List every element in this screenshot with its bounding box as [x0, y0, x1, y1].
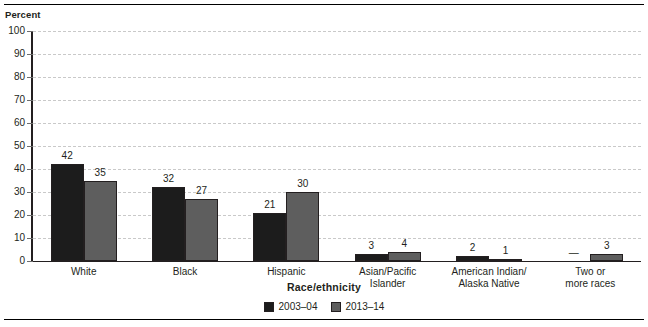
bar-1 [286, 192, 319, 261]
bar-value-label: 35 [76, 168, 125, 178]
bar-value-label: 42 [43, 151, 92, 161]
y-axis-tick [27, 146, 33, 147]
y-axis-tick [27, 31, 33, 32]
legend-item: 2003–04 [264, 301, 318, 312]
gridline [33, 77, 641, 78]
gridline [33, 192, 641, 193]
x-axis-line [33, 261, 641, 262]
legend-item: 2013–14 [331, 301, 385, 312]
bar-1 [388, 252, 421, 261]
bottom-rule [4, 319, 644, 320]
bar-1 [185, 199, 218, 261]
legend-swatch [264, 302, 274, 312]
y-axis-tick [27, 123, 33, 124]
y-axis-tick [27, 261, 33, 262]
chart-figure: Percent 4235322721303421—3 0102030405060… [0, 0, 648, 327]
bar-value-label: 3 [582, 241, 631, 251]
y-axis-tick [27, 100, 33, 101]
gridline [33, 146, 641, 147]
y-axis-caption: Percent [5, 9, 41, 20]
bar-value-label: 27 [177, 186, 226, 196]
y-axis-tick [27, 54, 33, 55]
y-axis-tick-label: 20 [0, 210, 25, 220]
y-axis-tick-label: 70 [0, 95, 25, 105]
bar-0 [51, 164, 84, 261]
bar-value-label: 4 [380, 239, 429, 249]
bar-1 [590, 254, 623, 261]
gridline [33, 238, 641, 239]
y-axis-tick-label: 80 [0, 72, 25, 82]
x-axis-title: Race/ethnicity [0, 281, 648, 293]
y-axis-tick [27, 192, 33, 193]
y-axis-tick-label: 30 [0, 187, 25, 197]
bar-0 [152, 187, 185, 261]
legend-label: 2003–04 [279, 301, 318, 312]
top-rule [4, 4, 644, 5]
gridline [33, 54, 641, 55]
bar-value-label: 1 [481, 246, 530, 256]
y-axis-tick-label: 40 [0, 164, 25, 174]
x-axis-category-line: Two or [520, 266, 648, 278]
gridline [33, 31, 641, 32]
plot-area: 4235322721303421—3 [33, 31, 641, 261]
y-axis-tick-label: 60 [0, 118, 25, 128]
bar-1 [84, 181, 117, 262]
y-axis-tick [27, 238, 33, 239]
bar-value-label: 30 [278, 179, 327, 189]
gridline [33, 123, 641, 124]
gridline [33, 215, 641, 216]
y-axis-tick [27, 77, 33, 78]
y-axis-tick-label: 90 [0, 49, 25, 59]
legend-swatch [331, 302, 341, 312]
y-axis-tick-label: 100 [0, 26, 25, 36]
y-axis-tick-label: 50 [0, 141, 25, 151]
y-axis-tick-label: 10 [0, 233, 25, 243]
bar-value-label: 32 [144, 174, 193, 184]
bar-0 [355, 254, 388, 261]
y-axis-tick [27, 215, 33, 216]
bar-0 [253, 213, 286, 261]
legend-label: 2013–14 [346, 301, 385, 312]
legend: 2003–042013–14 [0, 301, 648, 312]
gridline [33, 100, 641, 101]
y-axis-tick-label: 0 [0, 256, 25, 266]
y-axis-tick [27, 169, 33, 170]
